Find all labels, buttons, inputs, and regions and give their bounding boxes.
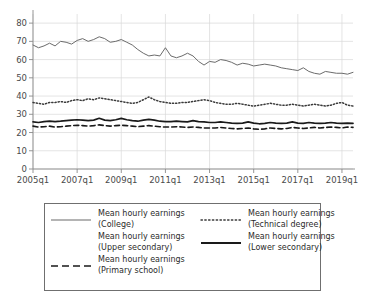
x-tick-label: 2007q1 xyxy=(61,175,93,185)
y-tick-label: 20 xyxy=(16,128,27,138)
x-tick-label: 2011q1 xyxy=(149,175,181,185)
series-line-0 xyxy=(33,37,353,74)
legend-label-line2: (Lower secondary) xyxy=(248,243,335,254)
data-series-group xyxy=(33,37,353,129)
legend-key-dotted xyxy=(199,209,243,231)
legend-column-right: Mean hourly earnings (Technical degree) … xyxy=(197,209,320,290)
legend-item-college[interactable]: Mean hourly earnings (College) xyxy=(49,209,197,231)
legend-label-line2: (Primary school) xyxy=(98,266,185,277)
series-line-1 xyxy=(33,97,353,106)
y-tick-label: 10 xyxy=(16,146,27,156)
legend-item-lower-secondary[interactable]: Mean hourly earnings (Lower secondary) xyxy=(199,232,320,254)
y-tick-label: 60 xyxy=(16,55,27,65)
y-tick-label: 50 xyxy=(16,73,27,83)
x-tick-label: 2013q1 xyxy=(193,175,225,185)
legend-label-line2: (Technical degree) xyxy=(248,220,335,231)
legend-item-technical-degree[interactable]: Mean hourly earnings (Technical degree) xyxy=(199,209,320,231)
legend-label-line1: Mean hourly earnings xyxy=(248,209,335,218)
legend-column-left: Mean hourly earnings (College) Mean hour… xyxy=(45,209,197,290)
chart-legend: Mean hourly earnings (College) Mean hour… xyxy=(44,203,321,291)
y-tick-label: 80 xyxy=(16,18,27,28)
legend-item-upper-secondary[interactable]: Mean hourly earnings (Upper secondary) xyxy=(49,232,197,254)
legend-key-blank xyxy=(49,232,93,254)
legend-label-line1: Mean hourly earnings xyxy=(98,255,185,264)
x-tick-label: 2005q1 xyxy=(17,175,49,185)
legend-label-line1: Mean hourly earnings xyxy=(248,232,335,241)
legend-label-line2: (College) xyxy=(98,220,185,231)
x-tick-label: 2017q1 xyxy=(282,175,314,185)
legend-item-primary-school[interactable]: Mean hourly earnings (Primary school) xyxy=(49,255,197,277)
y-tick-label: 70 xyxy=(16,36,27,46)
x-tick-label: 2009q1 xyxy=(105,175,137,185)
line-chart-svg: 01020304050607080 2005q12007q12009q12011… xyxy=(0,0,365,196)
x-axis: 2005q12007q12009q12011q12013q12015q12017… xyxy=(17,169,358,185)
x-tick-label: 2019q1 xyxy=(326,175,358,185)
legend-label-college: Mean hourly earnings (College) xyxy=(98,209,185,230)
series-line-4 xyxy=(33,125,353,129)
y-tick-label: 30 xyxy=(16,109,27,119)
legend-key-solid-thin xyxy=(49,209,93,231)
legend-label-line1: Mean hourly earnings xyxy=(98,232,185,241)
legend-key-solid-thick xyxy=(199,232,243,254)
y-axis: 01020304050607080 xyxy=(16,10,33,174)
y-tick-label: 40 xyxy=(16,91,27,101)
grid-lines xyxy=(33,14,353,169)
legend-label-upper-secondary: Mean hourly earnings (Upper secondary) xyxy=(98,232,185,253)
chart-figure: 01020304050607080 2005q12007q12009q12011… xyxy=(0,0,365,300)
y-tick-label: 0 xyxy=(22,164,27,174)
legend-label-line2: (Upper secondary) xyxy=(98,243,185,254)
plot-area: 01020304050607080 2005q12007q12009q12011… xyxy=(0,0,365,196)
legend-label-lower-secondary: Mean hourly earnings (Lower secondary) xyxy=(248,232,335,253)
legend-label-technical-degree: Mean hourly earnings (Technical degree) xyxy=(248,209,335,230)
x-tick-label: 2015q1 xyxy=(237,175,269,185)
legend-label-primary-school: Mean hourly earnings (Primary school) xyxy=(98,255,185,276)
legend-label-line1: Mean hourly earnings xyxy=(98,209,185,218)
legend-key-dashed xyxy=(49,255,93,277)
